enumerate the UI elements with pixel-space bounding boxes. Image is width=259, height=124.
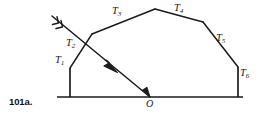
figure-caption: 101a. (9, 96, 32, 107)
label-t5: T5 (216, 33, 225, 44)
label-t5-base: T (216, 32, 222, 43)
label-t2-base: T (66, 37, 72, 48)
label-origin: O (146, 99, 153, 109)
figure-101a: T1 T2 T3 T4 T5 T6 O 101a. (0, 0, 259, 124)
member-t5 (203, 22, 238, 67)
label-t6-base: T (240, 67, 246, 78)
label-t4-sub: 4 (180, 7, 184, 15)
label-t1-base: T (55, 54, 61, 65)
label-t3-sub: 3 (118, 10, 122, 18)
label-t4: T4 (174, 3, 183, 14)
label-t3: T3 (112, 6, 121, 17)
ray-arrowhead-icon (104, 60, 118, 73)
label-t5-sub: 5 (222, 37, 226, 45)
label-t1: T1 (55, 55, 64, 66)
label-t1-sub: 1 (61, 59, 65, 67)
label-t6-sub: 6 (246, 72, 250, 80)
label-t3-base: T (112, 5, 118, 16)
incoming-ray (52, 16, 150, 97)
member-t3 (92, 9, 155, 34)
label-t2-sub: 2 (72, 42, 76, 50)
label-t2: T2 (66, 38, 75, 49)
label-t4-base: T (174, 2, 180, 13)
tension-diagram-svg (0, 0, 259, 124)
label-t6: T6 (240, 68, 249, 79)
